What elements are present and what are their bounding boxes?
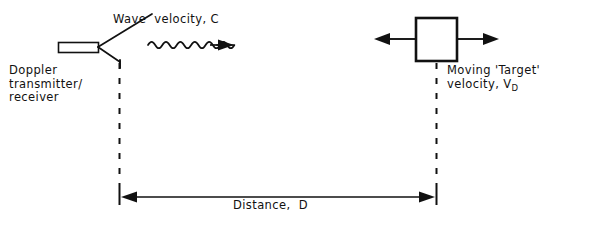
target-velocity-arrow-right [458, 33, 499, 45]
doppler-label-line-2: transmitter/ [9, 77, 82, 91]
dimension-arrowhead-left [121, 192, 137, 203]
wave-velocity-label: Wave velocity, C [113, 13, 219, 27]
target-square [416, 18, 457, 61]
waveguide-rectangle [59, 43, 99, 53]
doppler-label-line-3: receiver [9, 90, 59, 104]
distance-label: Distance, D [233, 199, 308, 213]
moving-target-velocity-label: Moving 'Target'velocity, VD [447, 64, 540, 95]
moving-target-block [374, 18, 499, 61]
velocity-subscript-d: D [512, 83, 519, 93]
propagating-wave-arrow [148, 40, 234, 51]
right-arrowhead [483, 33, 499, 45]
moving-target-label-line-1: Moving 'Target' [447, 63, 540, 77]
doppler-transmitter-receiver-label: Dopplertransmitter/receiver [9, 64, 82, 105]
dimension-arrowhead-right [419, 192, 435, 203]
doppler-diagram: Wave velocity, C Dopplertransmitter/rece… [0, 0, 589, 225]
left-arrowhead [374, 33, 390, 45]
horn-lower-line [98, 47, 120, 62]
moving-target-label-line-2: velocity, V [447, 77, 512, 91]
doppler-label-line-1: Doppler [9, 63, 57, 77]
diagram-vector-layer [0, 0, 589, 225]
target-velocity-arrow-left [374, 33, 415, 45]
